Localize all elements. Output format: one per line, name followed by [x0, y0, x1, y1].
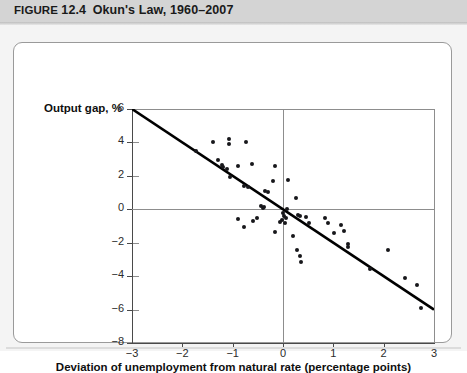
figure-caption: Okun's Law, 1960–2007	[93, 3, 234, 17]
scatter-point	[227, 137, 231, 141]
y-tick-inner	[133, 176, 139, 177]
figure-title: FIGURE 12.4 Okun's Law, 1960–2007	[14, 3, 233, 17]
header-shadow	[0, 22, 467, 25]
y-tick-inner	[133, 310, 139, 311]
scatter-point	[368, 267, 372, 271]
y-tick-mark	[127, 109, 132, 110]
scatter-point	[246, 185, 250, 189]
scatter-point	[211, 140, 215, 144]
scatter-point	[342, 229, 346, 233]
scatter-point	[291, 234, 295, 238]
scatter-point	[271, 179, 275, 183]
y-tick-label: −4	[94, 268, 124, 280]
figure-number: 12.4	[61, 3, 86, 17]
scatter-point	[419, 306, 423, 310]
plot-border-right	[434, 109, 435, 344]
scatter-point	[386, 248, 390, 252]
y-tick-label: −2	[94, 235, 124, 247]
scatter-point	[273, 164, 277, 168]
scatter-point	[242, 225, 246, 229]
scatter-point	[298, 254, 302, 258]
scatter-point	[236, 164, 240, 168]
y-tick-label: −6	[94, 302, 124, 314]
scatter-point	[266, 190, 270, 194]
y-tick-mark	[127, 209, 132, 210]
scatter-point	[285, 207, 289, 211]
figure-label: FIGURE	[14, 4, 58, 16]
scatter-point	[283, 221, 287, 225]
y-tick-mark	[127, 310, 132, 311]
scatter-point	[273, 230, 277, 234]
y-tick-inner	[133, 276, 139, 277]
scatter-point	[228, 175, 232, 179]
scatter-point	[251, 219, 255, 223]
y-tick-mark	[127, 176, 132, 177]
scatter-point	[250, 162, 254, 166]
scatter-point	[346, 245, 350, 249]
scatter-point	[307, 221, 311, 225]
scatter-point	[244, 140, 248, 144]
y-tick-inner	[133, 142, 139, 143]
y-tick-label: 0	[94, 201, 124, 213]
page-text-lines	[0, 343, 467, 351]
scatter-point	[286, 178, 290, 182]
scatter-point	[415, 283, 419, 287]
y-tick-mark	[127, 276, 132, 277]
scatter-point	[278, 220, 282, 224]
x-axis-title: Deviation of unemployment from natural r…	[14, 361, 453, 373]
scatter-point	[304, 215, 308, 219]
scatter-point	[262, 205, 266, 209]
scatter-point	[403, 276, 407, 280]
y-tick-mark	[127, 243, 132, 244]
gridline-vertical	[283, 109, 284, 344]
scatter-point	[299, 260, 303, 264]
scatter-point	[227, 142, 231, 146]
y-tick-inner	[133, 243, 139, 244]
chart-panel: Output gap, % Deviation of unemployment …	[13, 42, 452, 343]
scatter-point	[332, 231, 336, 235]
scatter-point	[326, 221, 330, 225]
scatter-point	[298, 214, 302, 218]
scatter-point	[255, 216, 259, 220]
y-tick-label: 4	[94, 134, 124, 146]
scatter-point	[284, 216, 288, 220]
y-tick-label: 6	[94, 101, 124, 113]
scatter-point	[236, 217, 240, 221]
scatter-point	[294, 196, 298, 200]
scatter-point	[295, 248, 299, 252]
y-tick-label: 2	[94, 168, 124, 180]
scatter-point	[225, 167, 229, 171]
y-tick-mark	[127, 142, 132, 143]
scatter-point	[194, 149, 198, 153]
scatter-point	[216, 158, 220, 162]
scatter-point	[339, 223, 343, 227]
